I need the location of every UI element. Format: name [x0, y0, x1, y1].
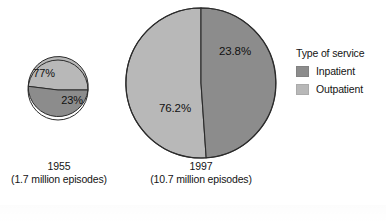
caption-1955-subtitle: (1.7 million episodes): [0, 173, 118, 186]
legend-item-outpatient[interactable]: Outpatient: [296, 83, 386, 95]
legend: Type of service Inpatient Outpatient: [296, 47, 386, 101]
legend-title: Type of service: [296, 47, 386, 60]
legend-swatch-outpatient: [296, 84, 309, 95]
caption-1955: 1955 (1.7 million episodes): [0, 160, 118, 186]
large-pie-label-outpatient: 76.2%: [159, 102, 191, 114]
large-pie-slice-outpatient[interactable]: [126, 8, 206, 158]
legend-label-inpatient: Inpatient: [316, 65, 355, 77]
large-pie-1997: 23.8% 76.2%: [126, 8, 276, 158]
legend-label-outpatient: Outpatient: [316, 83, 363, 95]
caption-1997: 1997 (10.7 million episodes): [121, 160, 281, 186]
caption-1997-year: 1997: [121, 160, 281, 173]
small-pie-label-outpatient: 77%: [33, 67, 55, 79]
legend-swatch-inpatient: [296, 66, 309, 77]
legend-item-inpatient[interactable]: Inpatient: [296, 65, 386, 77]
pie-chart-figure: 77% 23% 23.8% 76.2% 1955 (1.7 million ep…: [0, 0, 386, 224]
small-pie-label-inpatient: 23%: [61, 94, 83, 106]
small-pie-1955: 77% 23%: [28, 57, 88, 120]
large-pie-slice-inpatient[interactable]: [201, 8, 276, 158]
caption-1997-subtitle: (10.7 million episodes): [121, 173, 281, 186]
large-pie-label-inpatient: 23.8%: [219, 45, 251, 57]
pie-charts-canvas: 77% 23% 23.8% 76.2%: [0, 0, 386, 224]
caption-1955-year: 1955: [0, 160, 118, 173]
